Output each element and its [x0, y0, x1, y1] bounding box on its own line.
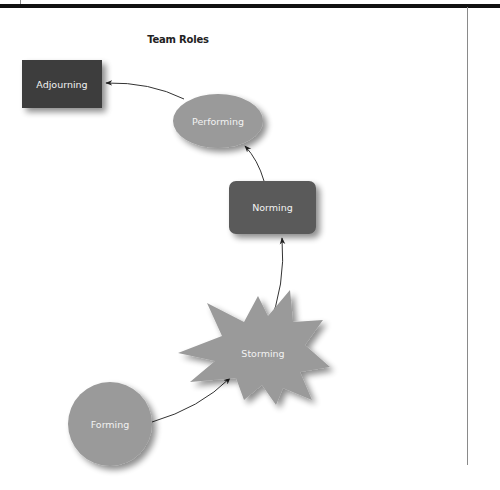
node-adjourning-label: Adjourning	[36, 79, 87, 90]
arrow-norming-to-performing	[245, 146, 264, 181]
node-performing-label: Performing	[192, 116, 244, 127]
node-adjourning: Adjourning	[22, 60, 102, 108]
node-forming: Forming	[68, 382, 152, 466]
arrow-performing-to-adjourning	[106, 83, 184, 99]
node-forming-label: Forming	[91, 419, 130, 430]
arrow-forming-to-storming	[152, 378, 230, 422]
node-storming: Storming	[178, 290, 330, 405]
node-performing: Performing	[173, 94, 263, 148]
node-storming-label: Storming	[241, 348, 284, 359]
team-roles-diagram: Adjourning Performing Norming Storming F…	[0, 0, 500, 490]
node-norming-label: Norming	[252, 202, 293, 213]
node-norming: Norming	[229, 181, 316, 234]
